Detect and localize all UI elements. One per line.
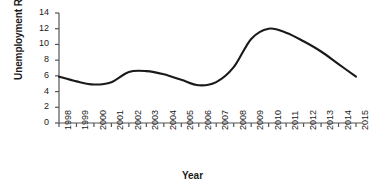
axis-lines	[59, 13, 362, 123]
x-tick-label: 2004	[168, 110, 178, 130]
unemployment-rate-line-chart: Unemployment Rate (%) 02468101214 199819…	[0, 0, 385, 187]
x-tick-label: 2010	[273, 110, 283, 130]
plot-area	[0, 0, 385, 187]
x-tick-label: 2015	[360, 110, 370, 130]
x-tick-label: 2008	[238, 110, 248, 130]
x-tick-label: 2000	[98, 110, 108, 130]
x-tick-label: 2013	[325, 110, 335, 130]
x-tick-label: 2001	[115, 110, 125, 130]
x-tick-label: 2011	[290, 111, 300, 130]
x-tick-label: 2007	[220, 110, 230, 130]
x-tick-label: 1998	[63, 110, 73, 130]
x-tick-label: 2012	[308, 110, 318, 130]
x-tick-label: 1999	[80, 110, 90, 130]
x-tick-label: 2003	[150, 110, 160, 130]
x-tick-label: 2006	[203, 110, 213, 130]
data-series-line	[59, 28, 356, 85]
x-axis-label: Year	[0, 170, 385, 181]
x-tick-label: 2014	[343, 110, 353, 130]
x-tick-label: 2009	[255, 110, 265, 130]
x-tick-label: 2005	[185, 110, 195, 130]
x-tick-label: 2002	[133, 110, 143, 130]
